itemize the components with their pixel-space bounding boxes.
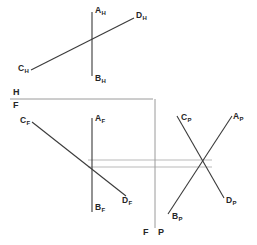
projection-lines-group <box>88 160 212 167</box>
label-point-c-top: CH <box>18 64 28 73</box>
line-CD-top <box>31 18 134 70</box>
label-point-d-top: DH <box>136 11 146 20</box>
horizontal-view-group <box>31 12 134 76</box>
fold-label-p: P <box>158 228 164 237</box>
line-CD-front <box>32 122 126 196</box>
label-point-d-profile: DP <box>226 196 236 205</box>
label-point-b-top: BH <box>95 74 105 83</box>
label-point-a-profile: AP <box>233 112 243 121</box>
fold-lines-group <box>10 99 155 228</box>
line-CD-profile <box>177 116 224 198</box>
fold-label-f: F <box>13 101 19 110</box>
fold-label-h: H <box>13 88 20 97</box>
label-point-d-front: DF <box>122 196 132 205</box>
label-point-a-top: AH <box>95 6 105 15</box>
label-point-b-front: BF <box>95 203 105 212</box>
profile-view-group <box>168 116 232 214</box>
diagram-canvas: AH DH CH BH H F CF AF DF BF CP AP DP BP … <box>0 0 257 245</box>
fold-label-f-bottom: F <box>143 228 149 237</box>
label-point-b-profile: BP <box>172 212 182 221</box>
descriptive-geometry-drawing <box>0 0 257 245</box>
label-point-a-front: AF <box>95 114 105 123</box>
line-AB-profile <box>168 116 232 214</box>
label-point-c-front: CF <box>20 116 30 125</box>
label-point-c-profile: CP <box>181 113 191 122</box>
frontal-view-group <box>32 118 126 212</box>
